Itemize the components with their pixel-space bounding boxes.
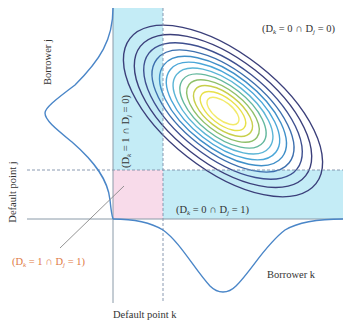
default-point-j-label: Default point j — [7, 161, 18, 222]
joint-default-region — [113, 170, 163, 219]
no-default-region-label: (Dk = 0 ∩ Dj = 0) — [262, 23, 335, 36]
joint-default-diagram: Borrower j Default point j Default point… — [0, 0, 355, 327]
joint-default-region-label: (Dk = 1 ∩ Dj = 1) — [12, 256, 85, 269]
borrower-j-label: Borrower j — [42, 39, 53, 85]
borrower-k-label: Borrower k — [267, 269, 316, 280]
contour-12 — [202, 92, 243, 130]
borrower-j-density-curve — [45, 8, 113, 219]
borrower-k-density-curve — [113, 219, 343, 292]
contour-11 — [194, 84, 253, 138]
default-point-k-label: Default point k — [113, 309, 177, 320]
